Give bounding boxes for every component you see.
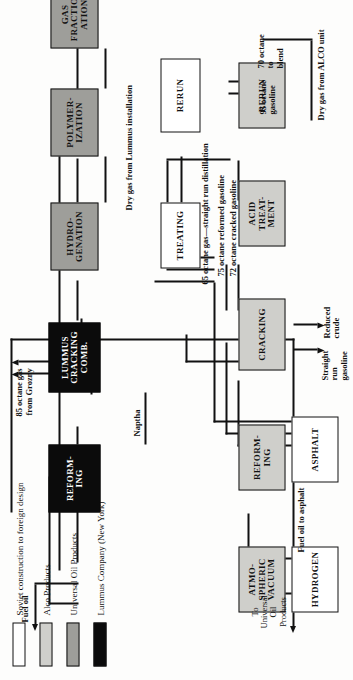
node-label-hydrogen: HYDROGEN [310,551,319,606]
stream-label-grozny: 85 octane gas from Grozny [14,368,33,416]
stream-label-dry-gas-lummus: Dry gas from Lummus installation [124,85,133,210]
legend-swatch-alco [39,622,52,666]
legend-swatch-uop [66,622,79,666]
stream-label-70-octane: 70 octane to blend [256,34,284,68]
connector [293,324,317,326]
connector [185,361,240,363]
connector [104,48,106,88]
node-label-acid-treatment: ACID TREAT- MENT [247,196,275,230]
node-lummus-cracking-comb[interactable]: LUMMUS CRACKING COMB. [48,322,100,392]
stream-label-fuel-oil: Fuel oil [20,595,29,622]
legend-item: Soviet construction to foreign design [12,482,25,666]
stream-label-straight-run-gasoline: Straight run gasoline [320,350,348,380]
node-polymerization[interactable]: POLYMER- IZATION [50,88,98,156]
node-label-treating: TREATING [175,210,184,260]
node-label-asphalt: ASPHALT [310,427,319,471]
connector [310,40,312,120]
node-gas-fractionation[interactable]: GAS FRACTION- ATION [50,0,98,48]
arrow-head [11,359,18,365]
stream-label-dry-gas-alco: Dry gas from ALCO unit [316,29,325,120]
node-label-reforming-alco: REFORM- ING [252,434,271,479]
node-cracking[interactable]: CRACKING [238,298,285,370]
connector [180,156,182,202]
connector [76,510,78,562]
legend-swatch-lummus [93,622,106,666]
node-label-rerun-soviet: RERUN [175,78,184,112]
legend-item: Alco Products [39,564,52,666]
connector [213,282,215,422]
connector [185,334,187,362]
connector [144,392,146,444]
node-reforming-lummus[interactable]: REFORM- ING [48,444,100,512]
legend-swatch-soviet [12,622,25,666]
connector [76,426,78,444]
stream-label-65-octane: 65 octane gas—straight run distillation [200,143,209,284]
connector [34,584,36,624]
connector [166,159,230,161]
node-label-reforming-lummus: REFORM- ING [65,455,84,500]
stream-label-72-octane: 72 octane cracked gasoline [228,179,237,276]
flow-diagram-canvas: Soviet construction to foreign design Al… [0,0,353,680]
legend-item: Lummus Company (New York) [93,501,106,666]
stream-label-to-uop: To Universal Oil Products [250,595,287,628]
node-treating[interactable]: TREATING [160,202,200,268]
stream-label-95-octane: 95 octane gasoline [258,80,277,114]
connector [293,349,317,351]
node-hydrogenation[interactable]: HYDRO- GENATION [50,202,98,270]
legend-label-lummus: Lummus Company (New York) [95,501,105,615]
arrow-head [31,624,37,631]
node-label-lummus-cracking-comb: LUMMUS CRACKING COMB. [60,331,88,383]
connector [76,280,78,320]
stream-label-fuel-oil-to-asphalt: Fuel oil to asphalt [296,487,305,552]
node-label-atmospheric-vacuum: ATMO- SPHERIC VACUUM [247,558,275,600]
diagram-page: Soviet construction to foreign design Al… [0,0,353,680]
connector [48,603,78,605]
connector [104,156,106,202]
connector [166,160,168,202]
node-asphalt[interactable]: ASPHALT [291,416,338,482]
stream-label-naptha: Naptha [132,409,141,436]
node-reforming-alco[interactable]: REFORM- ING [238,424,285,490]
node-hydrogen[interactable]: HYDROGEN [291,546,338,612]
connector [34,583,78,585]
node-rerun-soviet[interactable]: RERUN [160,58,200,132]
connector [76,44,78,90]
node-label-gas-fractionation: GAS FRACTION- ATION [60,0,88,41]
stream-label-reduced-crude: Reduced crude [322,306,341,338]
arrow-head [290,626,296,633]
node-label-polymerization: POLYMER- IZATION [65,97,84,148]
node-acid-treatment[interactable]: ACID TREAT- MENT [238,180,285,246]
stream-label-75-octane: 75 octane reformed gasoline [216,174,225,276]
connector [225,342,227,434]
node-label-cracking: CRACKING [257,308,266,360]
node-label-hydrogenation: HYDRO- GENATION [65,211,84,262]
connector [76,158,78,202]
